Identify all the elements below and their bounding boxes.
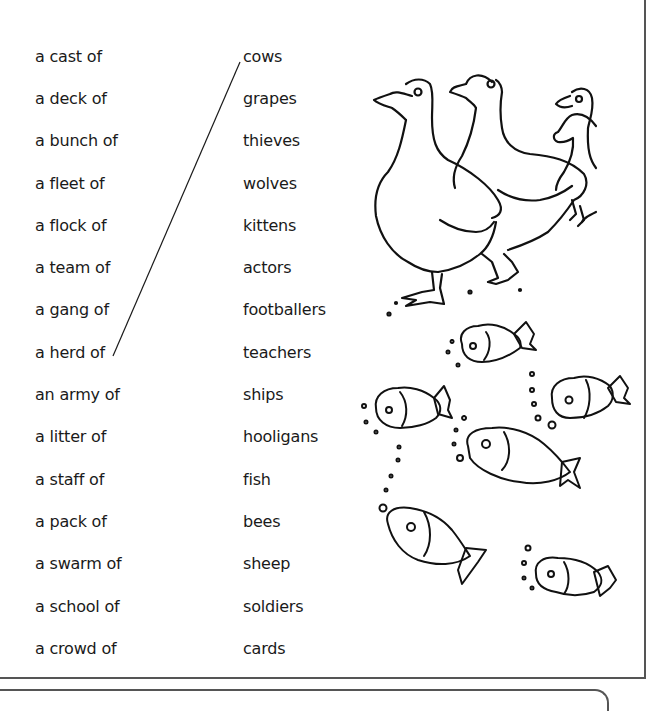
noun-item[interactable]: kittens [243,216,296,236]
noun-item[interactable]: fish [243,470,271,490]
noun-item[interactable]: hooligans [243,427,318,447]
noun-item[interactable]: sheep [243,554,290,574]
noun-item[interactable]: footballers [243,300,326,320]
noun-item[interactable]: thieves [243,131,300,151]
phrase-item[interactable]: a flock of [35,216,106,236]
fish-icon [362,322,630,596]
noun-item[interactable]: cards [243,639,285,659]
phrase-item[interactable]: a swarm of [35,554,122,574]
phrase-item[interactable]: a team of [35,258,110,278]
phrase-item[interactable]: a deck of [35,89,107,109]
phrase-item[interactable]: a fleet of [35,174,104,194]
noun-item[interactable]: teachers [243,343,311,363]
geese-icon [374,75,596,315]
phrase-item[interactable]: a litter of [35,427,106,447]
noun-item[interactable]: grapes [243,89,297,109]
noun-item[interactable]: ships [243,385,283,405]
phrase-item[interactable]: a herd of [35,343,105,363]
phrase-item[interactable]: a cast of [35,47,102,67]
phrase-item[interactable]: a crowd of [35,639,116,659]
phrase-item[interactable]: a pack of [35,512,107,532]
next-section-frame [0,689,609,711]
noun-item[interactable]: wolves [243,174,297,194]
phrase-item[interactable]: a school of [35,597,120,617]
noun-item[interactable]: actors [243,258,291,278]
noun-item[interactable]: cows [243,47,282,67]
worksheet-frame-right [644,0,646,679]
phrase-item[interactable]: a gang of [35,300,109,320]
phrase-item[interactable]: a staff of [35,470,104,490]
noun-item[interactable]: soldiers [243,597,303,617]
phrase-item[interactable]: an army of [35,385,120,405]
worksheet-frame-bottom [0,677,646,679]
phrase-item[interactable]: a bunch of [35,131,118,151]
noun-item[interactable]: bees [243,512,280,532]
